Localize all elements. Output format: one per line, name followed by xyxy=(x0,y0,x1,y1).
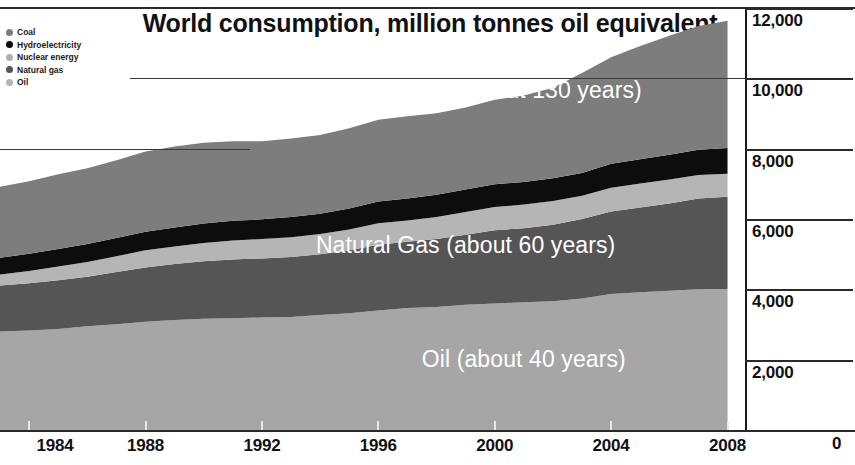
y-axis-label: 12,000 xyxy=(752,11,803,31)
gridline-8000 xyxy=(0,149,250,150)
chart-annotation: Coal (about 130 years) xyxy=(406,77,642,104)
y-axis-label: 0 xyxy=(832,434,841,454)
x-tick-2004 xyxy=(610,421,612,430)
x-axis-label: 1996 xyxy=(360,436,397,456)
chart-annotation: Oil (about 40 years) xyxy=(422,346,626,373)
x-tick-1984 xyxy=(28,421,30,430)
y-tick-10000 xyxy=(745,78,853,80)
y-tick-12000 xyxy=(745,8,853,10)
y-tick-2000 xyxy=(745,360,853,362)
x-axis-label: 2008 xyxy=(709,436,746,456)
x-axis-label: 2000 xyxy=(476,436,513,456)
x-tick-1996 xyxy=(377,421,379,430)
x-axis-label: 1988 xyxy=(127,436,164,456)
x-axis-line xyxy=(0,430,855,432)
x-axis-label: 2004 xyxy=(593,436,630,456)
y-tick-8000 xyxy=(745,149,853,151)
chart-root: World consumption, million tonnes oil eq… xyxy=(0,0,855,465)
x-tick-1992 xyxy=(261,421,263,430)
y-tick-4000 xyxy=(745,289,853,291)
x-axis-label: 1992 xyxy=(243,436,280,456)
chart-annotation: Natural Gas (about 60 years) xyxy=(316,232,615,259)
y-axis-label: 6,000 xyxy=(752,222,794,242)
x-axis-label: 1984 xyxy=(37,436,74,456)
y-axis-label: 4,000 xyxy=(752,292,794,312)
x-tick-1988 xyxy=(145,421,147,430)
y-axis-label: 2,000 xyxy=(752,363,794,383)
y-axis-label: 8,000 xyxy=(752,152,794,172)
y-tick-6000 xyxy=(745,219,853,221)
plot-area xyxy=(0,8,745,430)
y-axis-label: 10,000 xyxy=(752,81,803,101)
x-tick-2008 xyxy=(727,421,729,430)
x-tick-2000 xyxy=(494,421,496,430)
